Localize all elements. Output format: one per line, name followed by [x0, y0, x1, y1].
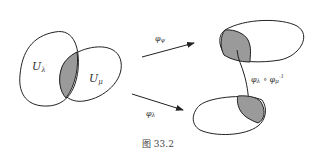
image-bottom [193, 96, 265, 135]
arrow-top [142, 43, 194, 57]
image-top-overlap [221, 30, 250, 62]
figure-caption: 图 33.2 [142, 139, 174, 149]
arrow-top-label: φψ [155, 34, 166, 44]
arrow-bottom [132, 94, 183, 110]
overlapping-sets: Uλ Uμ [20, 32, 122, 107]
label-u-mu: Uμ [89, 72, 103, 86]
image-top [220, 20, 304, 62]
label-u-lambda: Uλ [32, 60, 46, 74]
arrow-bottom-label: φλ [146, 109, 156, 118]
transition-label: φλ ∘ φμ-1 [251, 73, 284, 85]
diagram-canvas: Uλ Uμ φψ φλ φλ ∘ φμ-1 图 33.2 [0, 0, 319, 162]
intersection-region [60, 52, 78, 98]
image-bottom-overlap [237, 96, 264, 123]
